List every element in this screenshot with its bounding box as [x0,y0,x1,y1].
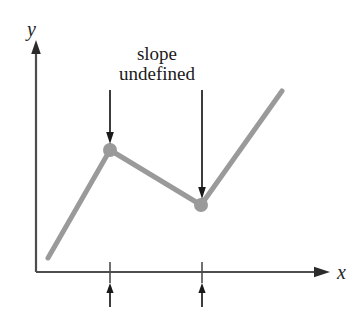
x-marker-arrows [106,283,205,307]
x-axis-arrowhead [314,267,330,277]
annotation-line-1: slope [97,44,217,64]
y-axis-label: y [27,19,36,39]
x-marker-arrow-head-1 [106,283,113,293]
y-axis [31,40,41,272]
annotation-arrows [106,90,206,199]
corner-point-2 [194,198,208,212]
x-axis-label: x [337,262,346,282]
x-marker-arrow-head-2 [198,283,205,293]
annotation-arrow-head-1 [106,132,114,144]
slope-undefined-annotation: slope undefined [97,44,217,84]
graph-figure: slope undefined y x [0,0,363,317]
annotation-line-2: undefined [97,64,217,84]
x-axis [36,267,330,277]
corner-point-1 [103,143,117,157]
curve-path [48,91,282,258]
y-axis-arrowhead [31,40,41,54]
